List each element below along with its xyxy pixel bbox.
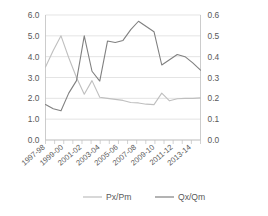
x-axis-tickmarks	[46, 140, 201, 144]
right-axis-tick-label: 0.0	[208, 135, 220, 145]
left-axis-tick-label: 3.0	[28, 73, 40, 83]
right-axis-tick-label: 0.5	[208, 31, 220, 41]
left-axis-tick-label: 0.0	[28, 135, 40, 145]
left-axis-tick-label: 5.0	[28, 31, 40, 41]
right-axis-tick-label: 0.1	[208, 114, 220, 124]
legend-label-px-pm: Px/Pm	[106, 192, 131, 202]
left-axis-tick-label: 4.0	[28, 52, 40, 62]
legend-label-qx-qm: Qx/Qm	[178, 192, 205, 202]
left-axis-tick-labels: 0.01.02.03.04.05.06.0	[28, 10, 40, 145]
left-axis-tick-label: 6.0	[28, 10, 40, 20]
left-axis-tick-label: 2.0	[28, 93, 40, 103]
right-axis-tick-label: 0.2	[208, 93, 220, 103]
gridlines-group	[46, 15, 201, 140]
series-group	[46, 21, 201, 111]
line-chart: 0.01.02.03.04.05.06.0 0.00.10.20.30.40.5…	[0, 0, 268, 216]
right-axis-tick-label: 0.3	[208, 73, 220, 83]
right-axis-tick-label: 0.4	[208, 52, 220, 62]
left-axis-tick-label: 1.0	[28, 114, 40, 124]
right-axis-tick-labels: 0.00.10.20.30.40.50.6	[208, 10, 220, 145]
chart-container: 0.01.02.03.04.05.06.0 0.00.10.20.30.40.5…	[0, 0, 268, 216]
x-axis-tick-labels: 1997-981999-002001-022003-042005-062007-…	[20, 143, 193, 168]
series-line-qx-qm	[46, 21, 201, 111]
legend: Px/PmQx/Qm	[83, 192, 205, 202]
right-axis-tick-label: 0.6	[208, 10, 220, 20]
